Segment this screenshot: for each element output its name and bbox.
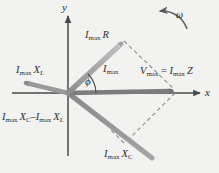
xc-minus-xl-label: Imax XC–Imax XL	[2, 112, 64, 124]
vmax-shaft	[68, 91, 171, 93]
imax-xl-shaft	[26, 83, 68, 93]
phi-label: ϕ	[85, 76, 91, 87]
imax-r-label: Imax R	[85, 30, 109, 42]
imax-current-label: Imax	[103, 64, 118, 76]
phasor-diagram-figure: y x Imax R Imax Vmax = Imax Z Imax XL Im…	[0, 0, 219, 173]
vmax-phasor	[68, 91, 174, 93]
y-axis-label: y	[62, 2, 67, 13]
x-axis-label: x	[205, 87, 210, 98]
dashed-bottom-right-line	[126, 93, 175, 142]
phasor-diagram-canvas	[0, 0, 219, 173]
imax-xl-label: Imax XL	[16, 65, 44, 77]
omega-label: ω	[176, 10, 183, 20]
vmax-label: Vmax = Imax Z	[140, 66, 193, 78]
imax-xl-phasor	[24, 83, 68, 94]
imax-xc-label: Imax XC	[104, 149, 133, 161]
